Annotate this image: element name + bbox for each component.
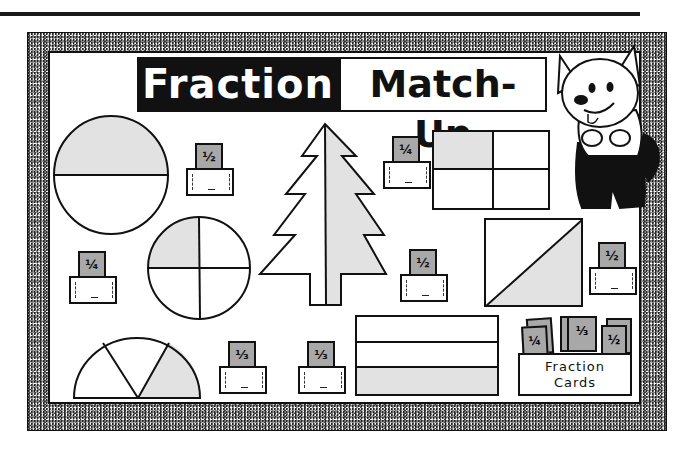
grid-quarters	[432, 130, 550, 210]
fraction-card[interactable]: ⅓	[307, 341, 335, 369]
fraction-card[interactable]: ½	[409, 249, 437, 277]
square-diagonal	[484, 218, 584, 308]
fraction-cards-box: Fraction Cards	[518, 353, 632, 396]
pocket-half-top[interactable]: ½	[186, 143, 234, 191]
fraction-card[interactable]: ½	[195, 143, 223, 171]
fraction-card[interactable]: ½	[598, 242, 626, 270]
pocket-quarter-left[interactable]: ¼	[69, 251, 117, 299]
pocket-slot	[186, 168, 234, 196]
card-third[interactable]: ⅓	[567, 316, 597, 352]
fraction-card[interactable]: ⅓	[228, 341, 256, 369]
circle-quarters	[147, 215, 253, 321]
pocket-third-a[interactable]: ⅓	[219, 341, 267, 389]
title-fraction: Fraction	[137, 57, 339, 112]
title-match-up: Match-Up	[339, 57, 547, 112]
fraction-card[interactable]: ¼	[78, 251, 106, 279]
pocket-slot	[69, 276, 117, 304]
dog-mascot-icon	[548, 38, 668, 218]
cards-box-line2: Cards	[520, 375, 630, 391]
tree-halves	[258, 122, 386, 308]
top-rule	[0, 12, 640, 16]
cards-box-line1: Fraction	[520, 359, 630, 375]
pocket-slot	[589, 267, 637, 295]
stripes-thirds	[355, 315, 500, 397]
pocket-slot	[383, 161, 431, 189]
pocket-slot	[219, 366, 267, 394]
pocket-half-tree[interactable]: ½	[400, 249, 448, 297]
pocket-slot	[400, 274, 448, 302]
pocket-third-b[interactable]: ⅓	[298, 341, 346, 389]
semicircle-thirds	[72, 330, 202, 400]
pocket-slot	[298, 366, 346, 394]
fraction-card[interactable]: ¼	[392, 136, 420, 164]
pocket-quarter-grid[interactable]: ¼	[383, 136, 431, 184]
pocket-half-square[interactable]: ½	[589, 242, 637, 290]
